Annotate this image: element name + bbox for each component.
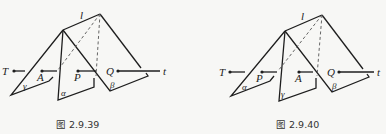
point-T — [228, 70, 231, 73]
label-plane-middle: α — [61, 88, 66, 98]
point-Q — [337, 70, 340, 73]
hidden-edge-2 — [96, 14, 100, 76]
caption: 图 2.9.40 — [276, 119, 319, 130]
label-Q: Q — [327, 66, 335, 78]
label-plane-left: γ — [23, 81, 27, 91]
label-plane-right: β — [109, 80, 115, 90]
label-t: t — [163, 65, 167, 77]
label-plane-right: β — [331, 81, 337, 91]
label-Q: Q — [106, 65, 114, 77]
caption: 图 2.9.39 — [56, 119, 99, 130]
label-l: l — [301, 10, 304, 22]
plane-right-back — [100, 14, 141, 68]
point-T — [12, 69, 15, 72]
label-left-gap: P — [255, 72, 263, 84]
point-Q — [116, 69, 119, 72]
label-plane-left: α — [242, 82, 247, 92]
label-right-gap: A — [294, 72, 302, 84]
figure-2-9-39: l T A P Q t γ α β 图 2.9.39 — [2, 9, 167, 130]
label-right-gap: P — [73, 71, 81, 83]
plane-left — [11, 30, 63, 95]
plane-left — [231, 31, 285, 96]
figure-2-9-40: l T P A Q t α γ β 图 2.9.40 — [219, 10, 381, 130]
label-l: l — [80, 9, 83, 21]
hidden-edge-2 — [317, 15, 322, 76]
plane-middle — [279, 31, 316, 101]
label-T: T — [219, 66, 226, 78]
label-T: T — [2, 65, 9, 77]
diagram-canvas: l T A P Q t γ α β 图 2.9.39 l T P A Q t α… — [0, 0, 386, 134]
plane-right-back — [322, 15, 363, 69]
label-left-gap: A — [36, 71, 44, 83]
label-plane-middle: γ — [281, 89, 285, 99]
label-t: t — [377, 66, 381, 78]
